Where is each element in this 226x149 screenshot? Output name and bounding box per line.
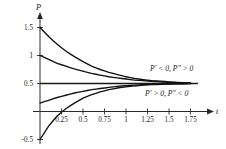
annotation-above-equilibrium: P′ < 0, P″ > 0 <box>149 64 194 73</box>
y-tick-label-3: -0.5 <box>22 136 34 144</box>
differential-equation-solution-plot: P t 0.25 0.5 0.75 1 1.25 1.5 1.75 1.5 1 … <box>0 0 226 149</box>
x-tick-label-0: 0.25 <box>55 116 68 124</box>
y-tick-label-0: 1.5 <box>24 24 33 32</box>
x-tick-label-5: 1.5 <box>165 116 174 124</box>
x-tick-label-1: 0.5 <box>79 116 88 124</box>
y-tick-label-1: 1 <box>29 52 33 60</box>
x-tick-label-4: 1.25 <box>141 116 154 124</box>
x-tick-label-3: 1 <box>124 116 128 124</box>
y-axis-title: P <box>35 3 41 12</box>
x-tick-label-2: 0.75 <box>98 116 111 124</box>
plot-background <box>0 0 226 149</box>
y-tick-label-2: 0.5 <box>24 80 33 88</box>
x-tick-label-6: 1.75 <box>184 116 197 124</box>
annotation-below-equilibrium: P′ > 0, P″ < 0 <box>144 89 189 98</box>
